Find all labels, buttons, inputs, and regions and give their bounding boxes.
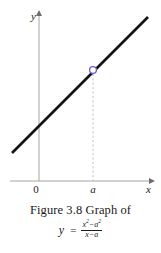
open-circle-marker: [90, 67, 97, 74]
formula-denominator: x−a: [84, 231, 99, 240]
caption-title: Figure 3.8 Graph of: [0, 203, 161, 218]
graph-canvas: [0, 0, 161, 200]
figure-container: y x 0 a Figure 3.8 Graph of y = x2−a2 x−…: [0, 0, 161, 253]
formula-fraction: x2−a2 x−a: [81, 221, 102, 240]
numerator-term2-exponent: 2: [98, 218, 101, 224]
tick-label-a: a: [88, 184, 98, 195]
y-axis-arrow-icon: [36, 10, 42, 16]
function-line: [12, 17, 148, 153]
denominator-term2: a: [94, 230, 98, 239]
y-axis-label: y: [31, 11, 36, 22]
tick-label-origin: 0: [31, 184, 41, 195]
figure-caption: Figure 3.8 Graph of y = x2−a2 x−a: [0, 203, 161, 240]
x-axis-label: x: [146, 184, 151, 195]
formula-numerator: x2−a2: [81, 221, 102, 230]
formula-left-hand-side: y: [59, 223, 64, 238]
caption-formula: y = x2−a2 x−a: [0, 221, 161, 240]
formula-equals-sign: =: [70, 224, 76, 236]
plot-area: y x 0 a: [0, 0, 161, 200]
